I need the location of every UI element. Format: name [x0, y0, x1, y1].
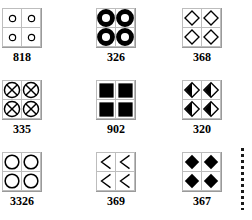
- pattern-item[interactable]: 902: [96, 80, 136, 135]
- pattern-cell[interactable]: [21, 171, 41, 191]
- pattern-item[interactable]: 3326: [2, 152, 42, 207]
- pattern-item[interactable]: 369: [96, 152, 136, 207]
- pattern-cell[interactable]: [182, 99, 202, 119]
- pattern-cell[interactable]: [182, 152, 202, 172]
- pattern-label: 902: [107, 123, 125, 135]
- thick-ring-icon: [116, 9, 134, 27]
- left-chevron-icon: [116, 153, 134, 171]
- half-filled-diamond-icon: [202, 81, 220, 99]
- filled-square-icon: [118, 102, 133, 117]
- pattern-grid-2x2[interactable]: [2, 8, 42, 48]
- pattern-cell[interactable]: [182, 27, 202, 47]
- pattern-cell[interactable]: [96, 80, 116, 100]
- pattern-cell[interactable]: [115, 152, 135, 172]
- left-chevron-icon: [97, 153, 115, 171]
- open-circle-icon: [22, 153, 40, 171]
- pattern-cell[interactable]: [201, 80, 221, 100]
- filled-diamond-icon: [202, 172, 220, 190]
- pattern-cell[interactable]: [96, 152, 116, 172]
- pattern-cell[interactable]: [115, 80, 135, 100]
- pattern-cell[interactable]: [96, 27, 116, 47]
- pattern-cell[interactable]: [115, 8, 135, 28]
- pattern-label: 320: [193, 123, 211, 135]
- pattern-cell[interactable]: [96, 171, 116, 191]
- left-chevron-icon: [116, 172, 134, 190]
- pattern-item[interactable]: 368: [182, 8, 222, 63]
- pattern-cell[interactable]: [2, 152, 22, 172]
- pattern-cell[interactable]: [21, 8, 41, 28]
- crossed-circle-icon: [22, 81, 40, 99]
- pattern-sheet: 8183263683359023203326369367: [0, 0, 252, 220]
- pattern-cell[interactable]: [96, 99, 116, 119]
- pattern-cell[interactable]: [96, 8, 116, 28]
- pattern-cell[interactable]: [201, 99, 221, 119]
- thick-ring-icon: [97, 9, 115, 27]
- pattern-cell[interactable]: [115, 171, 135, 191]
- pattern-cell[interactable]: [182, 171, 202, 191]
- open-circle-icon: [3, 153, 21, 171]
- pattern-cell[interactable]: [115, 99, 135, 119]
- pattern-label: 367: [193, 195, 211, 207]
- pattern-cell[interactable]: [21, 80, 41, 100]
- pattern-cell[interactable]: [21, 99, 41, 119]
- pattern-cell[interactable]: [2, 99, 22, 119]
- pattern-label: 335: [13, 123, 31, 135]
- left-chevron-icon: [97, 172, 115, 190]
- pattern-grid-2x2[interactable]: [2, 80, 42, 120]
- pattern-cell[interactable]: [2, 80, 22, 100]
- crossed-circle-icon: [3, 81, 21, 99]
- pattern-label: 326: [107, 51, 125, 63]
- small-open-circle-icon: [8, 14, 17, 23]
- small-open-circle-icon: [8, 33, 17, 42]
- thick-ring-icon: [116, 28, 134, 46]
- open-diamond-icon: [183, 9, 201, 27]
- crossed-circle-icon: [3, 100, 21, 118]
- filled-square-icon: [99, 83, 114, 98]
- half-filled-diamond-icon: [183, 81, 201, 99]
- pattern-item[interactable]: 335: [2, 80, 42, 135]
- pattern-cell[interactable]: [201, 152, 221, 172]
- pattern-label: 818: [13, 51, 31, 63]
- open-circle-icon: [22, 172, 40, 190]
- half-filled-diamond-icon: [202, 100, 220, 118]
- pattern-cell[interactable]: [201, 171, 221, 191]
- pattern-grid-2x2[interactable]: [96, 80, 136, 120]
- pattern-cell[interactable]: [182, 80, 202, 100]
- pattern-item[interactable]: 326: [96, 8, 136, 63]
- filled-diamond-icon: [183, 153, 201, 171]
- pattern-cell[interactable]: [201, 8, 221, 28]
- filled-diamond-icon: [183, 172, 201, 190]
- pattern-cell[interactable]: [21, 27, 41, 47]
- pattern-cell[interactable]: [115, 27, 135, 47]
- pattern-cell[interactable]: [2, 8, 22, 28]
- crossed-circle-icon: [22, 100, 40, 118]
- pattern-grid-2x2[interactable]: [182, 80, 222, 120]
- pattern-grid-2x2[interactable]: [96, 152, 136, 192]
- pattern-grid-2x2[interactable]: [182, 8, 222, 48]
- pattern-item[interactable]: 367: [182, 152, 222, 207]
- pattern-cell[interactable]: [182, 8, 202, 28]
- pattern-grid-2x2[interactable]: [182, 152, 222, 192]
- pattern-label: 3326: [10, 195, 34, 207]
- open-diamond-icon: [183, 28, 201, 46]
- open-circle-icon: [3, 172, 21, 190]
- pattern-grid-2x2[interactable]: [96, 8, 136, 48]
- vertical-dotted-rule-decoration: [241, 148, 244, 210]
- thick-ring-icon: [97, 28, 115, 46]
- filled-square-icon: [99, 102, 114, 117]
- half-filled-diamond-icon: [183, 100, 201, 118]
- pattern-cell[interactable]: [21, 152, 41, 172]
- pattern-cell[interactable]: [2, 171, 22, 191]
- open-diamond-icon: [202, 28, 220, 46]
- pattern-grid-2x2[interactable]: [2, 152, 42, 192]
- pattern-cell[interactable]: [2, 27, 22, 47]
- pattern-cell[interactable]: [201, 27, 221, 47]
- pattern-label: 368: [193, 51, 211, 63]
- pattern-item[interactable]: 320: [182, 80, 222, 135]
- pattern-item[interactable]: 818: [2, 8, 42, 63]
- small-open-circle-icon: [27, 14, 36, 23]
- small-open-circle-icon: [27, 33, 36, 42]
- filled-square-icon: [118, 83, 133, 98]
- filled-diamond-icon: [202, 153, 220, 171]
- open-diamond-icon: [202, 9, 220, 27]
